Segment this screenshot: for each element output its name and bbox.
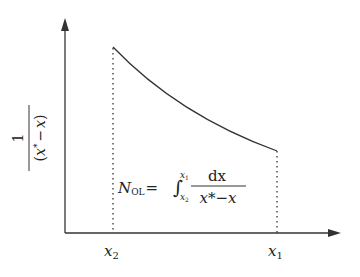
integral-diagram: 1 (x*−x) x2 x1 NOL= ∫ x1 x2 dx x*−x [0, 0, 360, 277]
x-tick-label-x2: x2 [104, 242, 119, 261]
equation-numerator: dx [208, 167, 227, 185]
integral-lower-limit: x2 [180, 192, 189, 203]
equation-lhs: NOL= [117, 179, 158, 197]
y-axis-label: 1 (x*−x) [10, 105, 48, 171]
integral-equation: NOL= ∫ x1 x2 dx x*−x [117, 167, 246, 207]
curve-1-over-xstar-minus-x [113, 47, 277, 151]
y-label-numerator: 1 [10, 134, 26, 143]
y-label-denominator: (x*−x) [32, 115, 48, 162]
x-tick-label-x1: x1 [268, 242, 283, 261]
x-axis-arrow-icon [328, 229, 341, 237]
equation-denominator: x*−x [200, 189, 238, 207]
y-axis-arrow-icon [61, 18, 69, 31]
integral-upper-limit: x1 [180, 170, 189, 181]
